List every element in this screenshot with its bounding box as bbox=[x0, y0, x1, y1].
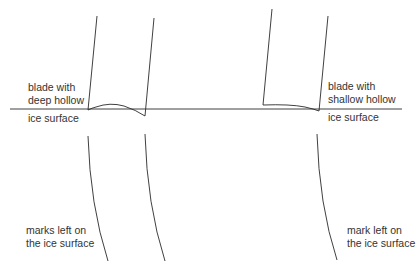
shallow-hollow-label: blade with shallow hollow bbox=[328, 80, 396, 105]
deep-hollow-marks bbox=[88, 134, 165, 261]
label-line: the ice surface bbox=[26, 237, 94, 250]
label-line: mark left on bbox=[347, 224, 415, 237]
right-ice-surface-label: ice surface bbox=[328, 111, 379, 124]
label-line: the ice surface bbox=[347, 237, 415, 250]
label-line: deep hollow bbox=[28, 94, 84, 107]
shallow-hollow-mark bbox=[317, 134, 337, 260]
deep-hollow-blade bbox=[88, 16, 154, 116]
label-line: shallow hollow bbox=[328, 93, 396, 106]
marks-left-label: marks left on the ice surface bbox=[26, 224, 94, 249]
label-line: marks left on bbox=[26, 224, 94, 237]
deep-hollow-label: blade with deep hollow bbox=[28, 81, 84, 106]
mark-left-label: mark left on the ice surface bbox=[347, 224, 415, 249]
label-line: blade with bbox=[328, 80, 396, 93]
label-line: blade with bbox=[28, 81, 84, 94]
left-ice-surface-label: ice surface bbox=[28, 112, 79, 125]
shallow-hollow-blade bbox=[263, 9, 328, 111]
